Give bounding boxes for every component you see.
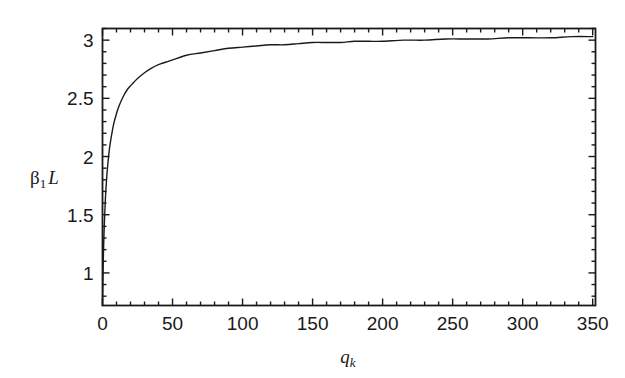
x-axis-title-base: q xyxy=(340,346,350,367)
x-tick-label: 100 xyxy=(227,314,259,333)
x-tick-label: 300 xyxy=(507,314,539,333)
y-axis-title-subscript: 1 xyxy=(40,176,47,191)
x-axis-title-subscript: k xyxy=(350,355,356,370)
x-tick-label: 0 xyxy=(97,314,108,333)
x-tick-label: 250 xyxy=(437,314,469,333)
chart-page: 050100150200250300350 11.522.53 qk β1L xyxy=(0,0,625,378)
x-axis-title: qk xyxy=(340,347,355,369)
y-axis-title-tail: L xyxy=(48,167,59,188)
y-axis-title: β1L xyxy=(30,168,59,190)
y-tick-label: 1 xyxy=(83,263,94,282)
x-tick-label: 150 xyxy=(297,314,329,333)
y-tick-label: 2.5 xyxy=(67,89,93,108)
x-tick-label: 350 xyxy=(577,314,609,333)
y-tick-label: 2 xyxy=(83,147,94,166)
y-tick-label: 3 xyxy=(83,31,94,50)
y-axis-title-base: β xyxy=(30,167,40,188)
x-tick-label: 200 xyxy=(367,314,399,333)
x-tick-label: 50 xyxy=(162,314,183,333)
y-tick-label: 1.5 xyxy=(67,205,93,224)
